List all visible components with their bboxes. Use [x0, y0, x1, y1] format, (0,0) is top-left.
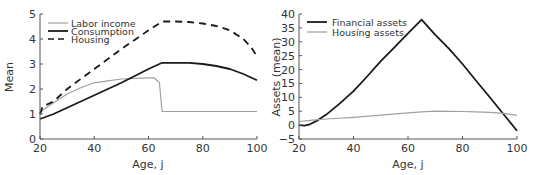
left-y-axis-label: Mean: [3, 62, 16, 92]
y-tick-label: 20: [281, 64, 295, 77]
y-tick-label: 25: [281, 50, 295, 63]
y-tick-label: 15: [281, 77, 295, 90]
series-line-labor-income: [40, 78, 257, 114]
y-tick-label: 4: [29, 33, 36, 46]
series-line-housing-assets: [299, 111, 517, 121]
y-tick-label: 5: [288, 105, 295, 118]
left-legend: Labor income Consumption Housing: [48, 18, 136, 45]
figure: 012345 20406080100 Age, j Mean Labor inc…: [0, 0, 542, 175]
right-chart: −50510152025303540 20406080100 Age, j As…: [270, 8, 528, 171]
y-tick-label: 5: [29, 8, 36, 21]
x-tick-label: 60: [142, 142, 156, 155]
x-tick-label: 100: [507, 142, 528, 155]
left-x-axis-label: Age, j: [132, 158, 163, 171]
legend-label-housing: Housing: [71, 34, 110, 45]
x-tick-label: 60: [401, 142, 415, 155]
right-y-axis-label: Assets (mean): [270, 37, 283, 116]
y-tick-label: 1: [29, 108, 36, 121]
x-tick-label: 20: [33, 142, 47, 155]
y-tick-label: 0: [288, 119, 295, 132]
x-tick-label: 80: [196, 142, 210, 155]
y-tick-label: 3: [29, 58, 36, 71]
legend-label-housing-assets: Housing assets: [332, 27, 404, 38]
y-tick-label: 2: [29, 83, 36, 96]
y-tick-label: 30: [281, 36, 295, 49]
x-tick-label: 100: [247, 142, 268, 155]
left-chart: 012345 20406080100 Age, j Mean Labor inc…: [3, 8, 268, 171]
right-legend: Financial assets Housing assets: [307, 17, 407, 38]
y-tick-label: 35: [281, 22, 295, 35]
left-y-ticks: 012345: [29, 8, 43, 146]
x-tick-label: 40: [347, 142, 361, 155]
x-tick-label: 40: [87, 142, 101, 155]
y-tick-label: 40: [281, 8, 295, 21]
x-tick-label: 80: [456, 142, 470, 155]
x-tick-label: 20: [292, 142, 306, 155]
y-tick-label: 10: [281, 91, 295, 104]
right-x-axis-label: Age, j: [392, 158, 423, 171]
